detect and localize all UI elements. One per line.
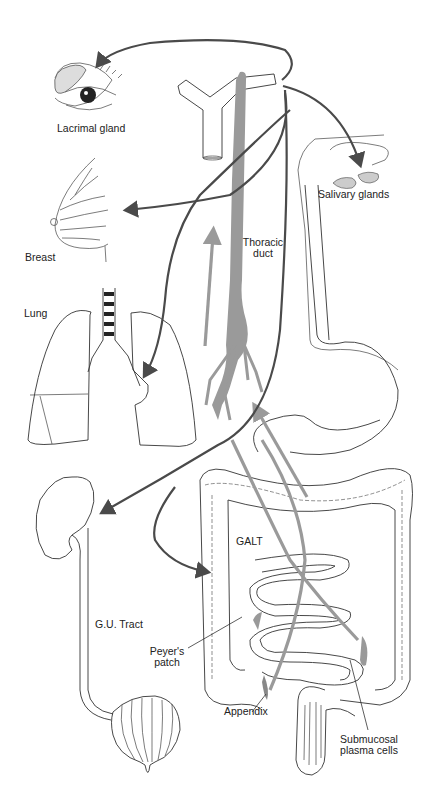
label-lacrimal-gland: Lacrimal gland bbox=[57, 123, 125, 134]
breast-icon bbox=[51, 158, 109, 262]
label-thoracic-duct: Thoracic duct bbox=[240, 237, 286, 259]
gray-arrow-to-thoracic-duct bbox=[205, 235, 213, 346]
label-peyers-patch: Peyer's patch bbox=[146, 646, 188, 668]
arrow-to-salivary-glands bbox=[283, 86, 360, 164]
eye-icon bbox=[55, 63, 122, 110]
label-galt: GALT bbox=[236, 536, 263, 547]
rectum-icon bbox=[296, 687, 355, 775]
label-breast: Breast bbox=[25, 252, 55, 263]
lungs-icon bbox=[28, 288, 196, 446]
small-intestine-icon bbox=[250, 554, 363, 685]
large-intestine-icon bbox=[200, 469, 413, 710]
label-submucosal-line2: plasma cells bbox=[338, 745, 400, 756]
label-lung: Lung bbox=[24, 308, 47, 319]
immune-migration-diagram bbox=[0, 0, 434, 796]
brachiocephalic-veins bbox=[178, 74, 276, 160]
label-peyers-patch-line2: patch bbox=[146, 657, 188, 668]
arrow-to-galt bbox=[154, 487, 207, 572]
leader-peyers-patch bbox=[188, 617, 242, 648]
arrow-to-breast bbox=[127, 93, 286, 210]
esophagus-stomach-icon bbox=[254, 185, 399, 455]
arrow-to-lacrimal-gland bbox=[98, 40, 292, 80]
label-submucosal-plasma-cells: Submucosal plasma cells bbox=[338, 734, 400, 756]
label-gu-tract: G.U. Tract bbox=[95, 619, 143, 630]
leader-submucosal bbox=[350, 660, 368, 730]
submucosal-highlight bbox=[360, 636, 367, 666]
label-salivary-glands: Salivary glands bbox=[318, 189, 389, 200]
arrow-to-kidney bbox=[103, 90, 287, 512]
salivary-glands-icon bbox=[298, 135, 398, 370]
peyers-patch-highlight bbox=[253, 612, 262, 630]
label-thoracic-duct-line2: duct bbox=[240, 248, 286, 259]
label-appendix: Appendix bbox=[224, 706, 268, 717]
appendix-icon bbox=[262, 675, 268, 700]
